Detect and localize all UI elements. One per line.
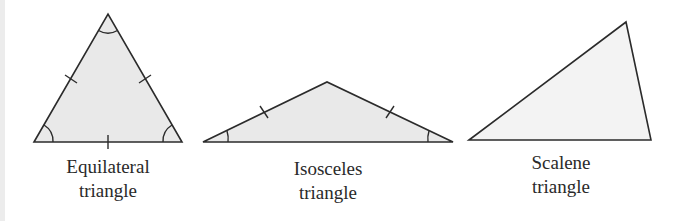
isosceles-label-line2: triangle [299, 182, 357, 203]
triangle-types-diagram: Equilateral triangle Isosceles triangle … [0, 0, 681, 221]
isosceles-triangle-figure: Isosceles triangle [203, 82, 453, 203]
equilateral-triangle-figure: Equilateral triangle [34, 14, 182, 201]
isosceles-triangle-shape [203, 82, 453, 142]
scalene-triangle-figure: Scalene triangle [469, 22, 651, 197]
equilateral-label-line1: Equilateral [66, 156, 149, 177]
scalene-triangle-shape [469, 22, 651, 140]
isosceles-label-line1: Isosceles [294, 158, 363, 179]
scalene-label-line1: Scalene [531, 152, 590, 173]
equilateral-label-line2: triangle [79, 180, 137, 201]
scalene-label-line2: triangle [532, 176, 590, 197]
